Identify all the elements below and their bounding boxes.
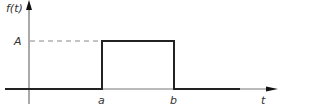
pulse-signal	[5, 41, 240, 89]
y-axis-arrow-icon	[26, 0, 32, 10]
end-label: b	[170, 94, 177, 106]
start-label: a	[98, 94, 105, 106]
x-axis-label: t	[261, 94, 266, 106]
x-axis-arrow-icon	[266, 87, 278, 92]
pulse-diagram: f(t) A a b t	[0, 0, 317, 106]
y-axis-label: f(t)	[6, 2, 23, 15]
amplitude-label: A	[13, 35, 22, 48]
